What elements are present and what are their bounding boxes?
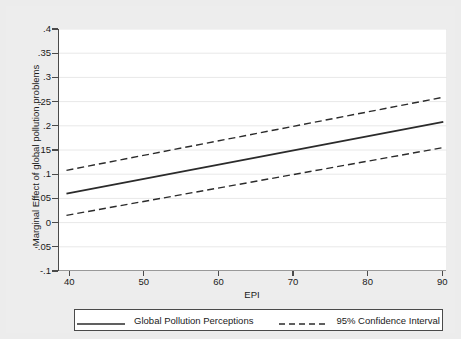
chart-legend: Global Pollution Perceptions95% Confiden… [74, 309, 443, 331]
x-tick-label: 60 [213, 276, 224, 287]
x-tick-label: 70 [288, 276, 299, 287]
legend-swatch-dashed-icon [279, 315, 327, 325]
x-tick-label: 90 [437, 276, 448, 287]
x-tick-label: 50 [139, 276, 150, 287]
y-tick-label: -.1 [40, 266, 51, 276]
x-axis-tick-labels: 405060708090 [58, 276, 446, 290]
series-line [66, 97, 443, 170]
legend-label: 95% Confidence Interval [336, 315, 440, 326]
x-tick-label: 40 [64, 276, 75, 287]
y-tick-label: .2 [43, 121, 51, 131]
y-tick-label: .4 [43, 24, 51, 34]
y-axis-title: Marginal Effect of global pollution prob… [30, 31, 41, 281]
legend-swatch-solid-icon [77, 315, 125, 325]
plot-area [58, 29, 446, 271]
y-axis-tick-marks [51, 29, 58, 271]
legend-entry: Global Pollution Perceptions [77, 315, 253, 326]
legend-label: Global Pollution Perceptions [134, 315, 253, 326]
figure-inner-panel: -.1-.050.05.1.15.2.25.3.35.4 40506070809… [6, 6, 455, 333]
chart-figure: -.1-.050.05.1.15.2.25.3.35.4 40506070809… [0, 0, 461, 339]
plot-lines-svg [59, 29, 447, 271]
x-tick-label: 80 [362, 276, 373, 287]
y-tick-label: .3 [43, 72, 51, 82]
x-axis-title: EPI [58, 289, 446, 300]
legend-entry: 95% Confidence Interval [279, 315, 440, 326]
y-tick-label: .1 [43, 169, 51, 179]
